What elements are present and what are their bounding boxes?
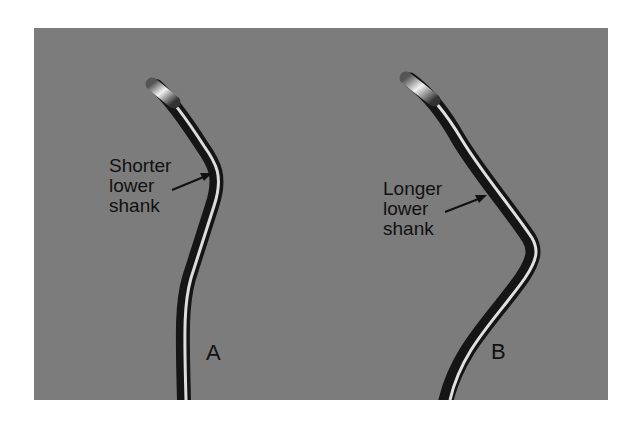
- instrument-b-letter: B: [491, 339, 506, 365]
- instrument-a-letter: A: [206, 340, 221, 366]
- arrow-a: [172, 173, 212, 190]
- label-line: Shorter: [109, 156, 171, 176]
- instrument-b-shank: [406, 78, 536, 400]
- instrument-photo: Shorter lower shank A Longer lower shank…: [34, 28, 608, 400]
- instrument-b-label: Longer lower shank: [383, 179, 442, 239]
- arrow-b: [445, 195, 487, 212]
- label-line: lower: [383, 199, 442, 219]
- label-line: shank: [109, 196, 171, 216]
- label-line: Longer: [383, 179, 442, 199]
- label-line: shank: [383, 219, 442, 239]
- instrument-a-label: Shorter lower shank: [109, 156, 171, 216]
- label-line: lower: [109, 176, 171, 196]
